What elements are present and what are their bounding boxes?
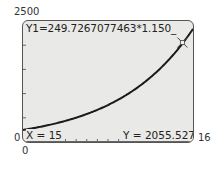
trace-y-value: Y = 2055.527 [122, 129, 194, 141]
calculator-graph-screen: Y1=249.7267077463*1.150_ X = 15 Y = 2055… [22, 20, 194, 143]
trace-x-value: X = 15 [26, 129, 63, 141]
equation-label: Y1=249.7267077463*1.150_ [26, 22, 176, 34]
y-max-label: 2500 [14, 7, 39, 17]
plot-area [23, 21, 193, 142]
x-max-label: 16 [198, 133, 211, 143]
x-min-label: 0 [22, 146, 28, 156]
y-min-label: 0 [14, 133, 20, 143]
exponential-curve [23, 29, 193, 130]
trace-cursor-icon [177, 38, 187, 48]
